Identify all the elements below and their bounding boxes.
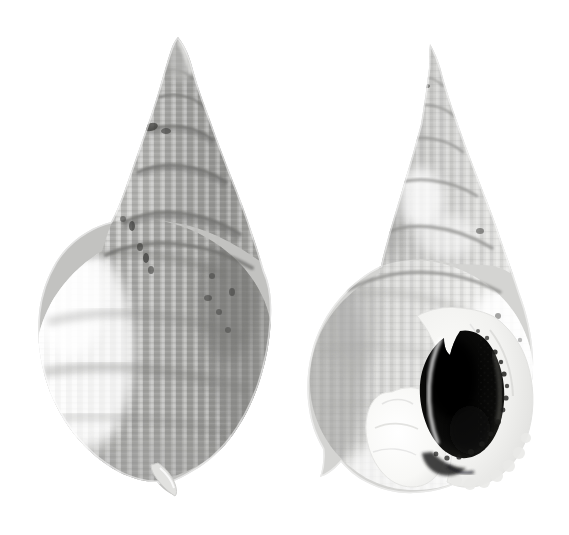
shell-photograph-canvas [0,0,569,535]
specimen-plate [0,0,569,535]
